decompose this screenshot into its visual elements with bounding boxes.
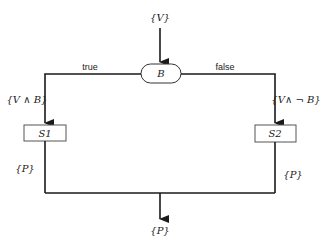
- flowchart-canvas: {V} B true {V ∧ B} S1 {P} false {V∧ ¬ B}…: [0, 0, 321, 248]
- precondition-label: {V}: [150, 12, 170, 23]
- true-assertion-label: {V ∧ B}: [7, 94, 48, 105]
- s2-post-assertion: {P}: [283, 169, 302, 180]
- decision-label: B: [156, 68, 164, 79]
- false-assertion-label: {V∧ ¬ B}: [271, 94, 320, 105]
- false-edge-label: false: [215, 62, 234, 72]
- s1-post-assertion: {P}: [15, 163, 34, 174]
- statement-s2-label: S2: [268, 128, 281, 139]
- true-branch-edge: [45, 74, 141, 123]
- false-branch-edge: [181, 74, 275, 123]
- true-edge-label: true: [82, 62, 98, 72]
- statement-s1-label: S1: [38, 128, 51, 139]
- postcondition-label: {P}: [150, 225, 169, 236]
